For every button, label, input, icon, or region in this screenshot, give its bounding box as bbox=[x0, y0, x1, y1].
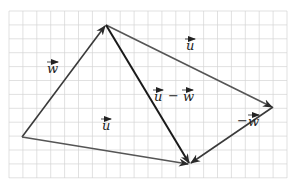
svg-text:w: w bbox=[183, 89, 194, 104]
label-neg-w: − w bbox=[237, 113, 259, 129]
svg-text:w: w bbox=[248, 114, 259, 129]
svg-text:w: w bbox=[47, 61, 58, 76]
vector-diagram: w u u u − w − w bbox=[0, 0, 300, 191]
label-u-minus-w: u − w bbox=[153, 88, 194, 104]
svg-text:u: u bbox=[102, 118, 110, 133]
label-u-top: u bbox=[185, 38, 195, 53]
svg-text:−: − bbox=[168, 88, 179, 103]
vector-u-bottom bbox=[22, 137, 188, 164]
label-u-bottom: u bbox=[101, 118, 111, 133]
label-w: w bbox=[47, 61, 58, 76]
svg-text:u: u bbox=[186, 38, 194, 53]
svg-text:−: − bbox=[237, 113, 248, 128]
svg-text:u: u bbox=[154, 89, 162, 104]
